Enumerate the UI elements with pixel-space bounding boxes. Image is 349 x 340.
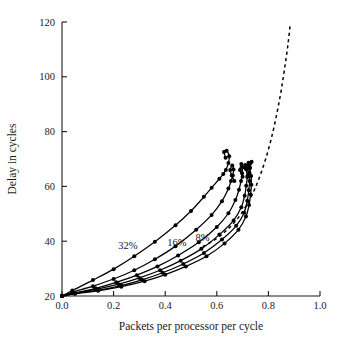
data-point-marker: [179, 259, 183, 263]
data-point-marker: [245, 199, 249, 203]
y-tick-label: 100: [39, 71, 55, 82]
data-point-marker: [176, 253, 180, 257]
data-point-marker: [96, 289, 100, 293]
data-point-marker: [112, 277, 116, 281]
data-point-marker: [232, 167, 236, 171]
data-point-marker: [202, 195, 206, 199]
data-point-marker: [226, 211, 230, 215]
data-point-marker: [155, 264, 159, 268]
data-point-marker: [174, 223, 178, 227]
data-point-marker: [224, 168, 228, 172]
data-point-marker: [220, 238, 224, 242]
data-point-marker: [242, 211, 246, 215]
data-point-marker: [189, 209, 193, 213]
data-point-marker: [199, 247, 203, 251]
x-tick-label: 0.6: [210, 300, 223, 311]
data-point-marker: [243, 194, 247, 198]
data-point-marker: [210, 213, 214, 217]
data-point-marker: [153, 257, 157, 261]
x-tick-label: 0.0: [55, 300, 68, 311]
data-point-marker: [217, 233, 221, 237]
y-tick-label: 80: [45, 126, 56, 137]
data-point-marker: [226, 161, 230, 165]
data-point-marker: [194, 228, 198, 232]
data-point-marker: [60, 294, 64, 298]
data-point-marker: [204, 254, 208, 258]
data-point-marker: [163, 273, 167, 277]
data-point-marker: [73, 292, 77, 296]
data-point-marker: [119, 285, 123, 289]
chart-figure: 0.00.20.40.60.81.0 20406080100120 32%16%…: [0, 0, 349, 340]
data-point-marker: [232, 218, 236, 222]
data-point-marker: [232, 179, 236, 183]
data-point-marker: [230, 164, 234, 168]
data-point-marker: [244, 215, 248, 219]
data-point-marker: [237, 188, 241, 192]
data-point-marker: [220, 199, 224, 203]
data-point-marker: [230, 173, 234, 177]
x-tick-label: 1.0: [313, 300, 326, 311]
data-point-marker: [132, 268, 136, 272]
data-point-marker: [228, 168, 232, 172]
data-point-marker: [250, 160, 254, 164]
data-point-marker: [244, 184, 248, 188]
data-point-marker: [215, 225, 219, 229]
delay-vs-throughput-chart: 0.00.20.40.60.81.0 20406080100120 32%16%…: [0, 0, 349, 340]
x-tick-label: 0.4: [159, 300, 173, 311]
data-point-marker: [112, 267, 116, 271]
annotation-32: 32%: [118, 240, 138, 251]
data-point-marker: [210, 186, 214, 190]
x-tick-label: 0.2: [107, 300, 120, 311]
y-axis-label: Delay in cycles: [6, 123, 19, 194]
data-point-marker: [91, 278, 95, 282]
x-tick-label: 0.8: [262, 300, 275, 311]
data-point-marker: [236, 228, 240, 232]
data-point-marker: [249, 193, 253, 197]
x-axis-label: Packets per processor per cycle: [119, 320, 263, 333]
data-point-marker: [132, 254, 136, 258]
data-point-marker: [241, 175, 245, 179]
y-tick-label: 120: [39, 17, 55, 28]
data-point-marker: [226, 187, 230, 191]
data-point-marker: [247, 188, 251, 192]
data-point-marker: [227, 154, 231, 158]
chart-background: [0, 0, 349, 340]
annotation-8: 8%: [196, 232, 210, 243]
data-point-marker: [239, 179, 243, 183]
y-tick-label: 40: [45, 236, 56, 247]
data-point-marker: [249, 183, 253, 187]
data-point-marker: [248, 179, 252, 183]
annotation-16: 16%: [167, 237, 187, 248]
data-point-marker: [184, 264, 188, 268]
data-point-marker: [239, 205, 243, 209]
data-point-marker: [202, 251, 206, 255]
data-point-marker: [238, 168, 242, 172]
data-point-marker: [247, 203, 251, 207]
y-tick-label: 20: [45, 291, 56, 302]
data-point-marker: [240, 171, 244, 175]
data-point-marker: [143, 279, 147, 283]
data-point-marker: [239, 162, 243, 166]
data-point-marker: [248, 166, 252, 170]
data-point-marker: [223, 241, 227, 245]
data-point-marker: [217, 177, 221, 181]
data-point-marker: [224, 156, 228, 160]
data-point-marker: [222, 150, 226, 154]
data-point-marker: [153, 240, 157, 244]
data-point-marker: [249, 174, 253, 178]
data-point-marker: [234, 224, 238, 228]
data-point-marker: [221, 172, 225, 176]
data-point-marker: [233, 198, 237, 202]
y-tick-label: 60: [45, 181, 56, 192]
